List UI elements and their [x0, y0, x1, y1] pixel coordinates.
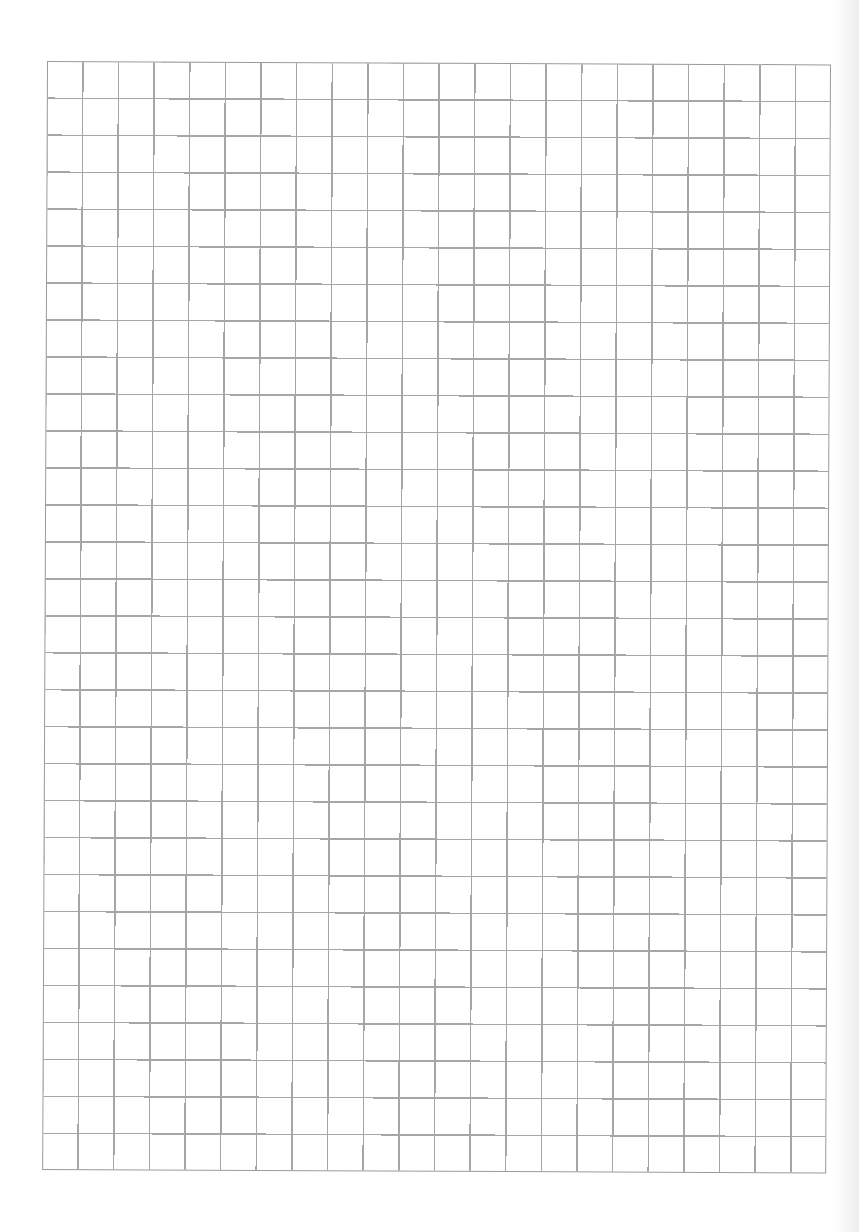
grid-paper: [42, 61, 831, 1173]
scan-edge-shadow: [835, 0, 859, 1232]
